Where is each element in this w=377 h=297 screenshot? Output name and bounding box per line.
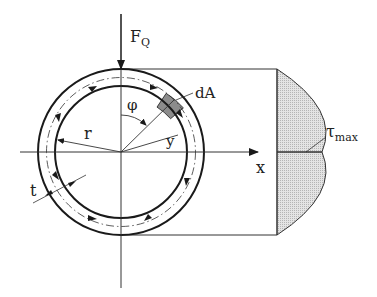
thickness-arrow-inner xyxy=(68,181,76,187)
area-element-label: dA xyxy=(195,84,216,102)
y-label: y xyxy=(165,132,175,150)
thickness-label: t xyxy=(30,181,37,200)
shear-diagram: FQ φ dA r y t x τmax xyxy=(0,0,377,297)
thickness-dimension xyxy=(33,175,86,203)
x-axis-label: x xyxy=(256,158,265,177)
tau-max-label: τmax xyxy=(326,122,359,144)
force-label: FQ xyxy=(130,27,150,49)
radius-label: r xyxy=(84,124,92,143)
angle-label: φ xyxy=(127,96,138,114)
angle-arc xyxy=(121,115,146,125)
